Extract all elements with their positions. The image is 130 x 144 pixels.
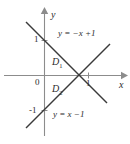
coordinate-plot: [0, 0, 130, 144]
region-label-d1: D1: [52, 57, 62, 70]
x-axis-label: x: [119, 80, 123, 90]
region-label-d2: D2: [52, 84, 62, 97]
region-d2-subscript: 2: [59, 89, 62, 96]
region-d1-subscript: 1: [59, 62, 62, 69]
x-tick-label-one: 1: [86, 79, 91, 88]
y-tick-label-one: 1: [34, 35, 39, 44]
figure-container: y x 0 1 -1 1 D1 D2 y = −x +1 y = x −1: [0, 0, 130, 144]
equation-label-ascending: y = x −1: [53, 110, 84, 119]
y-axis-arrowhead: [41, 7, 48, 14]
y-tick-label-negative-one: -1: [29, 106, 37, 115]
y-axis-label: y: [51, 10, 55, 20]
equation-label-descending: y = −x +1: [58, 29, 95, 38]
origin-label: 0: [35, 78, 40, 87]
